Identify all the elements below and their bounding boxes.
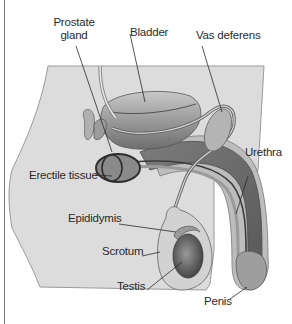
label-prostate-gland: Prostate gland <box>42 16 106 42</box>
label-vas-deferens: Vas deferens <box>196 29 261 42</box>
label-testis: Testis <box>117 280 145 293</box>
label-epididymis: Epididymis <box>68 212 122 225</box>
anatomy-diagram: Prostate gland Bladder Vas deferens Uret… <box>0 0 292 324</box>
label-prostate-line1: Prostate <box>42 16 106 29</box>
label-urethra: Urethra <box>245 146 282 159</box>
label-prostate-line2: gland <box>42 29 106 42</box>
diagram-illustration <box>0 0 292 324</box>
label-penis: Penis <box>204 295 232 308</box>
testis-shape <box>173 234 203 278</box>
label-bladder: Bladder <box>130 26 168 39</box>
label-erectile-tissue: Erectile tissue <box>29 169 98 182</box>
label-scrotum: Scrotum <box>102 245 143 258</box>
